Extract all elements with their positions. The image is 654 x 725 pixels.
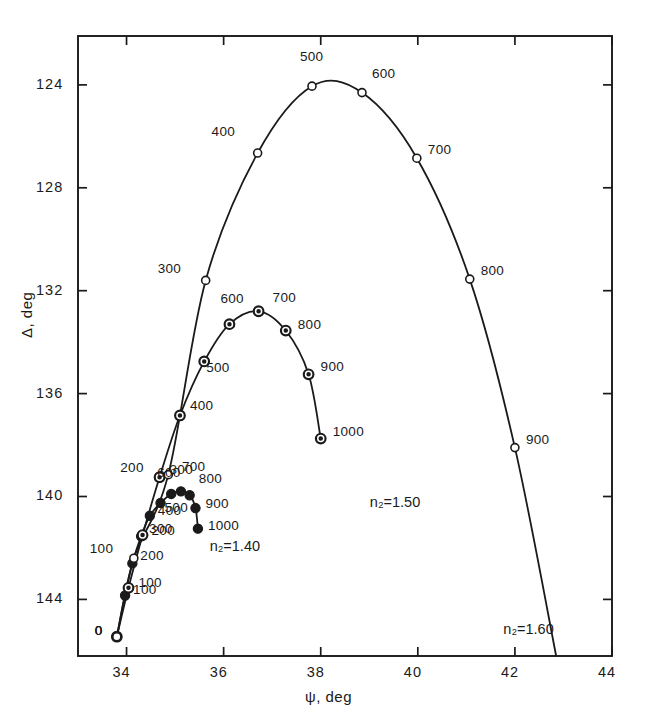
point-thickness-label: 400 — [212, 124, 235, 139]
x-tick-label: 34 — [113, 664, 131, 680]
point-thickness-label: 600 — [220, 291, 243, 306]
y-axis-title: Δ, deg — [18, 292, 35, 338]
marker-open-circle — [254, 149, 262, 157]
y-tick-label: 136 — [36, 385, 63, 401]
x-tick-label: 42 — [501, 664, 519, 680]
x-tick-label: 38 — [307, 664, 325, 680]
point-thickness-label: 800 — [298, 317, 321, 332]
y-tick-label: 132 — [36, 282, 63, 298]
marker-filled-circle — [145, 511, 154, 520]
point-thickness-label: 300 — [158, 261, 181, 276]
marker-open-circle — [308, 82, 316, 90]
marker-inner-dot — [179, 414, 182, 417]
y-tick-label: 128 — [36, 179, 63, 195]
marker-inner-dot — [284, 329, 287, 332]
marker-inner-dot — [203, 360, 206, 363]
marker-filled-circle — [167, 489, 176, 498]
data-point-markers — [112, 82, 519, 642]
y-tick-label: 124 — [36, 76, 63, 92]
point-thickness-label: 200 — [152, 523, 175, 538]
point-thickness-label: 900 — [205, 496, 228, 511]
marker-open-circle — [202, 276, 210, 284]
point-thickness-label: 200 — [120, 460, 143, 475]
x-tick-label: 44 — [598, 664, 616, 680]
marker-filled-circle — [193, 524, 202, 533]
marker-open-circle — [130, 554, 138, 562]
marker-filled-circle — [191, 503, 200, 512]
y-tick-label: 140 — [36, 487, 63, 503]
point-thickness-label: 900 — [526, 432, 549, 447]
marker-inner-dot — [141, 534, 144, 537]
point-thickness-label: 500 — [300, 49, 323, 64]
x-axis-title: ψ, deg — [305, 688, 352, 705]
y-tick-label: 144 — [36, 590, 63, 606]
point-thickness-label: 600 — [372, 66, 395, 81]
marker-filled-circle — [185, 491, 194, 500]
ellipsometry-chart-figure: Δ, deg ψ, deg 34363840424412412813213614… — [0, 0, 654, 725]
marker-open-circle — [413, 154, 421, 162]
marker-inner-dot — [257, 310, 260, 313]
marker-open-circle — [113, 633, 121, 641]
x-tick-label: 36 — [210, 664, 228, 680]
point-thickness-label: 0 — [95, 623, 103, 638]
curve-label-n2=1.40: n₂=1.40 — [210, 538, 260, 554]
marker-open-circle — [466, 275, 474, 283]
point-thickness-label: 500 — [206, 360, 229, 375]
marker-inner-dot — [228, 323, 231, 326]
point-thickness-label: 800 — [481, 263, 504, 278]
point-thickness-label: 100 — [138, 575, 161, 590]
marker-filled-circle — [176, 487, 185, 496]
marker-inner-dot — [127, 586, 130, 589]
point-thickness-label: 800 — [199, 471, 222, 486]
point-thickness-label: 400 — [190, 398, 213, 413]
point-thickness-label: 700 — [273, 290, 296, 305]
point-thickness-label: 700 — [428, 142, 451, 157]
curve-label-n2=1.60: n₂=1.60 — [503, 621, 553, 637]
x-tick-label: 40 — [404, 664, 422, 680]
marker-open-circle — [511, 444, 519, 452]
point-thickness-label: 100 — [90, 541, 113, 556]
point-thickness-label: 900 — [321, 359, 344, 374]
point-thickness-label: 1000 — [333, 424, 364, 439]
curve-label-n2=1.50: n₂=1.50 — [370, 494, 420, 510]
point-thickness-label: 500 — [165, 500, 188, 515]
marker-open-circle — [358, 89, 366, 97]
marker-inner-dot — [319, 437, 322, 440]
marker-inner-dot — [307, 373, 310, 376]
point-thickness-label: 200 — [140, 548, 163, 563]
point-thickness-label: 1000 — [208, 518, 239, 533]
point-thickness-label: 300 — [170, 462, 193, 477]
